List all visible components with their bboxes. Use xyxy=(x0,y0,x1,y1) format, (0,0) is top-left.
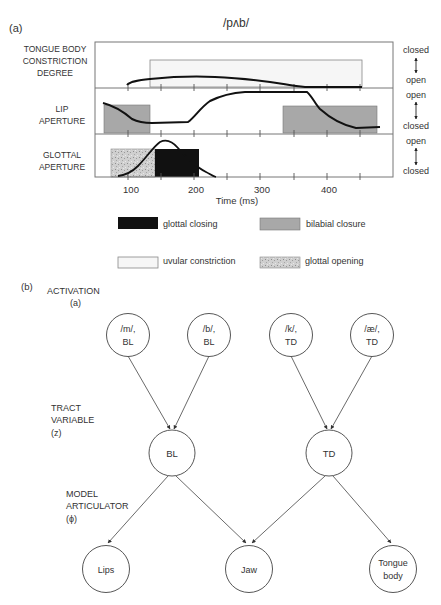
legend-item-glottal-closing: glottal closing xyxy=(118,217,218,229)
edge-b-to-bl xyxy=(174,356,209,429)
svg-text:GLOTTAL: GLOTTAL xyxy=(43,150,81,160)
svg-text:glottal closing: glottal closing xyxy=(163,219,218,229)
x-tick-label: 400 xyxy=(321,184,337,195)
legend-item-bilabial-closure: bilabial closure xyxy=(260,218,366,230)
svg-text:VARIABLE: VARIABLE xyxy=(51,415,94,425)
svg-text:TD: TD xyxy=(285,337,297,347)
node-tract-bl: BL xyxy=(149,430,195,476)
svg-text:ACTIVATION: ACTIVATION xyxy=(47,286,100,296)
x-tick-label: 200 xyxy=(188,184,204,195)
panel-b-label: (b) xyxy=(21,281,33,292)
edge-td-to-jaw xyxy=(252,476,325,543)
svg-text:BL: BL xyxy=(203,337,214,347)
row-label-lip-aperture: LIP APERTURE xyxy=(39,104,85,126)
svg-text:body: body xyxy=(383,571,403,581)
edge-k-to-td xyxy=(291,356,327,429)
scale-glottal-aperture: open closed xyxy=(403,136,429,176)
svg-text:APERTURE: APERTURE xyxy=(39,162,85,172)
legend-item-glottal-opening: glottal opening xyxy=(260,256,364,268)
svg-text:open: open xyxy=(406,136,426,146)
edge-ae-to-td xyxy=(331,356,372,429)
row-label-glottal-aperture: GLOTTAL APERTURE xyxy=(39,150,85,172)
row-label-tongue-body: TONGUE BODY CONSTRICTION DEGREE xyxy=(23,44,88,78)
panel-a-label: (a) xyxy=(9,22,22,34)
svg-text:TONGUE BODY: TONGUE BODY xyxy=(24,44,87,54)
svg-text:Tongue: Tongue xyxy=(378,558,408,568)
bilabial-closure-box-1 xyxy=(104,105,150,133)
svg-text:Lips: Lips xyxy=(98,565,115,575)
node-articulator-jaw: Jaw xyxy=(226,546,273,593)
svg-text:closed: closed xyxy=(403,45,429,55)
svg-text:(ϕ): (ϕ) xyxy=(66,514,77,524)
svg-text:Jaw: Jaw xyxy=(241,565,258,575)
panel-a: (a) /pʌb/ TONGUE BODY CONSTRICTION DEGRE… xyxy=(9,16,429,268)
svg-text:APERTURE: APERTURE xyxy=(39,116,85,126)
svg-text:TRACT: TRACT xyxy=(51,403,81,413)
svg-text:/m/,: /m/, xyxy=(121,324,136,334)
x-axis-label: Time (ms) xyxy=(216,195,258,206)
svg-text:uvular constriction: uvular constriction xyxy=(163,256,236,266)
scale-lip-aperture: open closed xyxy=(403,90,429,131)
scale-tongue-body: closed open xyxy=(403,45,429,85)
edge-bl-to-jaw xyxy=(176,476,246,543)
svg-text:TD: TD xyxy=(366,337,378,347)
panel-b: (b) ACTIVATION (a) TRACT VARIABLE (z) MO… xyxy=(21,281,417,593)
svg-text:(a): (a) xyxy=(70,298,81,308)
node-activation-m: /m/, BL xyxy=(107,314,150,357)
svg-text:MODEL: MODEL xyxy=(66,489,98,499)
node-activation-k: /k/, TD xyxy=(270,314,313,357)
svg-text:LIP: LIP xyxy=(56,104,69,114)
chart-title: /pʌb/ xyxy=(223,16,250,30)
svg-text:open: open xyxy=(406,90,426,100)
edge-td-to-tongue-body xyxy=(333,476,391,543)
node-articulator-tongue-body: Tongue body xyxy=(370,546,417,593)
svg-text:(z): (z) xyxy=(51,428,62,438)
legend-item-uvular-constriction: uvular constriction xyxy=(118,256,236,268)
node-tract-td: TD xyxy=(306,430,352,476)
svg-text:closed: closed xyxy=(403,166,429,176)
svg-text:open: open xyxy=(406,75,426,85)
svg-text:CONSTRICTION: CONSTRICTION xyxy=(23,56,88,66)
level-label-tract-variable: TRACT VARIABLE (z) xyxy=(51,403,94,438)
svg-text:/k/,: /k/, xyxy=(285,324,297,334)
svg-text:ARTICULATOR: ARTICULATOR xyxy=(66,501,129,511)
svg-text:BL: BL xyxy=(122,337,133,347)
svg-text:TD: TD xyxy=(323,448,336,459)
node-activation-b: /b/, BL xyxy=(188,314,231,357)
legend: glottal closing bilabial closure uvular … xyxy=(118,217,366,268)
node-articulator-lips: Lips xyxy=(83,546,130,593)
svg-text:glottal opening: glottal opening xyxy=(305,256,364,266)
node-activation-ae: /æ/, TD xyxy=(351,314,394,357)
svg-text:DEGREE: DEGREE xyxy=(37,68,73,78)
svg-text:closed: closed xyxy=(403,121,429,131)
svg-text:bilabial closure: bilabial closure xyxy=(306,219,366,229)
uvular-constriction-box xyxy=(150,60,362,87)
figure: (a) /pʌb/ TONGUE BODY CONSTRICTION DEGRE… xyxy=(0,0,441,605)
svg-text:BL: BL xyxy=(166,448,178,459)
svg-text:/æ/,: /æ/, xyxy=(364,324,380,334)
edge-m-to-bl xyxy=(128,356,170,429)
svg-text:/b/,: /b/, xyxy=(203,324,216,334)
x-tick-label: 300 xyxy=(254,184,270,195)
bilabial-closure-box-2 xyxy=(283,106,377,133)
x-tick-label: 100 xyxy=(123,184,139,195)
level-label-activation: ACTIVATION (a) xyxy=(47,286,100,308)
level-label-model-articulator: MODEL ARTICULATOR (ϕ) xyxy=(66,489,129,524)
